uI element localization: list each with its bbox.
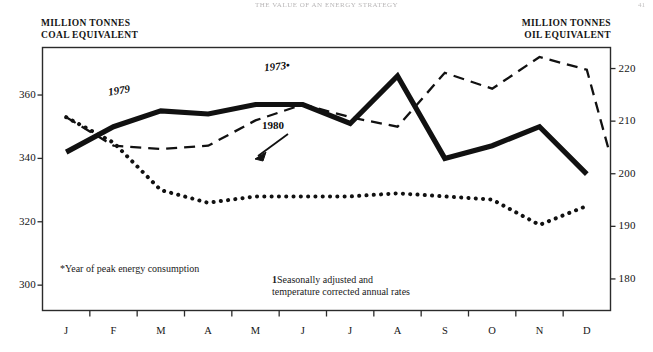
x-axis-month-label: M [152, 325, 170, 336]
y-tick-label-left: 320 [6, 215, 36, 227]
footnote-star: *Year of peak energy consumption [60, 263, 199, 276]
y-tick-label-right: 220 [619, 62, 636, 74]
plot-area [0, 0, 653, 352]
y-tick-label-right: 210 [619, 114, 636, 126]
footnote-one-text: Seasonally adjusted and temperature corr… [272, 274, 410, 298]
series-line-1979 [66, 76, 587, 174]
y-tick-label-right: 180 [619, 272, 636, 284]
series-line-1973 [66, 57, 608, 149]
y-tick-label-left: 300 [6, 278, 36, 290]
annotation-arrow-1980 [258, 134, 288, 156]
x-axis-month-label: N [531, 325, 549, 336]
y-tick-label-right: 190 [619, 219, 636, 231]
x-axis-month-label: S [436, 325, 454, 336]
footnote-one: 1Seasonally adjusted and temperature cor… [272, 261, 410, 299]
x-axis-month-label: J [57, 325, 75, 336]
x-axis-month-label: J [341, 325, 359, 336]
x-axis-month-label: D [578, 325, 596, 336]
figure-energy-consumption: THE VALUE OF AN ENERGY STRATEGY 41 MILLI… [0, 0, 653, 352]
x-axis-month-label: J [294, 325, 312, 336]
x-axis-month-label: A [389, 325, 407, 336]
x-axis-month-label: F [105, 325, 123, 336]
x-axis-month-label: O [483, 325, 501, 336]
y-tick-label-right: 200 [619, 167, 636, 179]
x-axis-month-label: A [199, 325, 217, 336]
annotation-1980: 1980 [262, 119, 284, 131]
y-tick-label-left: 340 [6, 151, 36, 163]
series-line-1980 [66, 117, 587, 225]
x-axis-month-label: M [247, 325, 265, 336]
y-tick-label-left: 360 [6, 88, 36, 100]
